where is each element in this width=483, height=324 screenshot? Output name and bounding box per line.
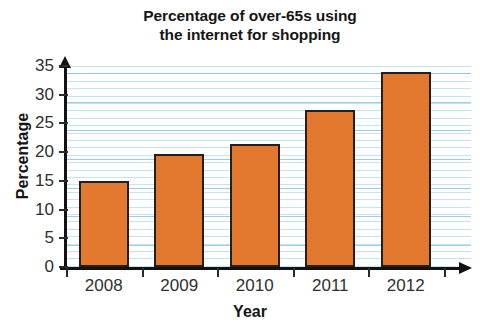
x-tick-label-2012: 2012 <box>368 276 444 295</box>
y-tick-20 <box>59 151 68 153</box>
y-tick-10 <box>59 209 68 211</box>
x-tick-label-2011: 2011 <box>292 276 368 295</box>
x-axis-line <box>60 267 462 270</box>
bar-2010 <box>230 144 280 267</box>
chart-title-line-2: the internet for shopping <box>60 25 440 44</box>
x-tick-label-2008: 2008 <box>66 276 142 295</box>
chart-title-line-1: Percentage of over-65s using <box>143 7 356 24</box>
y-tick-30 <box>59 94 68 96</box>
y-tick-label-35: 35 <box>14 57 54 74</box>
bar-2011 <box>305 110 355 267</box>
bar-2012 <box>381 72 431 267</box>
y-tick-5 <box>59 237 68 239</box>
y-tick-15 <box>59 180 68 182</box>
y-tick-label-5: 5 <box>14 229 54 246</box>
plot-area <box>67 66 471 267</box>
chart-screenshot: Percentage of over-65s using the interne… <box>0 0 483 324</box>
bar-2009 <box>154 154 204 267</box>
x-tick-5 <box>444 268 446 277</box>
x-tick-label-2009: 2009 <box>141 276 217 295</box>
bar-2008 <box>79 181 129 267</box>
y-tick-35 <box>59 65 68 67</box>
y-tick-25 <box>59 122 68 124</box>
y-tick-label-0: 0 <box>14 258 54 275</box>
x-tick-label-2010: 2010 <box>217 276 293 295</box>
x-axis-arrow-icon <box>459 262 472 274</box>
x-axis-title: Year <box>190 303 310 321</box>
chart-title: Percentage of over-65s using the interne… <box>60 6 440 44</box>
y-axis-title: Percentage <box>14 86 32 226</box>
